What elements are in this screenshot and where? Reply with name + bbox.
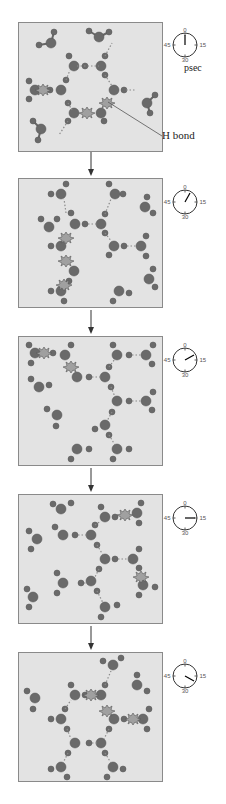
stopwatch-icon-3: 0153045 xyxy=(168,343,202,377)
snapshot-panel-5 xyxy=(18,652,163,782)
stopwatch-icon-2: 0153045 xyxy=(168,185,202,219)
snapshot-panel-2 xyxy=(18,178,163,308)
time-arrow-3 xyxy=(88,468,94,492)
svg-text:0: 0 xyxy=(183,500,187,506)
snapshot-panel-3 xyxy=(18,336,163,466)
svg-text:15: 15 xyxy=(200,357,207,363)
svg-text:15: 15 xyxy=(200,515,207,521)
time-arrow-4 xyxy=(88,626,94,650)
svg-text:30: 30 xyxy=(182,530,189,536)
molecule-network-4 xyxy=(19,495,164,625)
svg-text:0: 0 xyxy=(183,342,187,348)
stopwatch-icon-4: 0153045 xyxy=(168,501,202,535)
h-bond-callout-line xyxy=(100,96,170,146)
svg-text:45: 45 xyxy=(164,199,171,205)
svg-text:0: 0 xyxy=(183,658,187,664)
svg-text:45: 45 xyxy=(164,42,171,48)
stopwatch-icon-1: 0153045 xyxy=(168,28,202,62)
svg-text:45: 45 xyxy=(164,357,171,363)
snapshot-panel-4 xyxy=(18,494,163,624)
svg-text:30: 30 xyxy=(182,214,189,220)
time-unit-label: psec xyxy=(184,62,202,73)
svg-text:30: 30 xyxy=(182,372,189,378)
molecule-network-3 xyxy=(19,337,164,467)
svg-text:0: 0 xyxy=(183,27,187,33)
svg-text:0: 0 xyxy=(183,184,187,190)
stopwatch-icon-5: 0153045 xyxy=(168,659,202,693)
svg-text:15: 15 xyxy=(200,42,207,48)
svg-text:45: 45 xyxy=(164,673,171,679)
svg-text:15: 15 xyxy=(200,673,207,679)
time-arrow-1 xyxy=(88,152,94,176)
svg-text:30: 30 xyxy=(182,688,189,694)
svg-text:15: 15 xyxy=(200,199,207,205)
svg-text:45: 45 xyxy=(164,515,171,521)
molecule-network-2 xyxy=(19,179,164,309)
molecule-network-5 xyxy=(19,653,164,783)
time-arrow-2 xyxy=(88,310,94,334)
h-bond-label: H bond xyxy=(162,129,195,141)
